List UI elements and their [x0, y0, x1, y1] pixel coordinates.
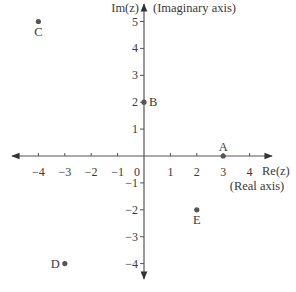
- point-c-label: C: [34, 25, 42, 39]
- y-tick-label: 1: [132, 122, 138, 136]
- point-c-marker: [36, 19, 41, 24]
- x-tick-label: 4: [247, 165, 253, 179]
- point-b-marker: [141, 100, 146, 105]
- y-tick-label: 2: [132, 95, 138, 109]
- y-tick-label: 5: [132, 15, 138, 29]
- point-b-label: B: [149, 95, 157, 109]
- y-tick-label: −3: [125, 230, 138, 244]
- y-tick-label: −2: [125, 203, 138, 217]
- x-tick-label: 2: [194, 165, 200, 179]
- x-tick-label: −4: [32, 165, 45, 179]
- imaginary-axis-label: Im(z): [111, 1, 139, 15]
- x-tick-label: −3: [58, 165, 71, 179]
- point-d-marker: [62, 261, 67, 266]
- y-tick-label: −4: [125, 257, 138, 271]
- point-e-marker: [194, 207, 199, 212]
- point-a-label: A: [219, 140, 228, 154]
- x-tick-label: −1: [111, 165, 124, 179]
- point-a-marker: [221, 153, 226, 158]
- origin-label: 0: [134, 165, 140, 179]
- y-tick-label: 4: [132, 41, 138, 55]
- real-axis-sublabel: (Real axis): [230, 179, 285, 193]
- real-axis-label: Re(z): [262, 164, 290, 178]
- point-d-label: D: [51, 257, 60, 271]
- x-tick-label: −2: [85, 165, 98, 179]
- x-tick-label: 3: [220, 165, 226, 179]
- y-tick-label: 3: [132, 68, 138, 82]
- imaginary-axis-sublabel: (Imaginary axis): [153, 1, 236, 15]
- x-tick-label: 1: [167, 165, 173, 179]
- complex-plane: −4−3−2−11234 54321−1−2−3−4 0 Re(z) (Real…: [0, 0, 296, 292]
- imaginary-axis-ticks: 54321−1−2−3−4: [125, 15, 144, 271]
- real-axis-ticks: −4−3−2−11234: [32, 153, 253, 179]
- point-e-label: E: [193, 213, 201, 227]
